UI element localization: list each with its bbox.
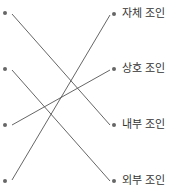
matching-diagram: [0, 0, 176, 189]
right-dot-2: [112, 67, 116, 71]
left-dots: [3, 11, 7, 183]
left-dot-3: [3, 123, 7, 127]
right-dot-4: [112, 179, 116, 183]
right-dots: [112, 12, 116, 183]
right-dot-1: [112, 12, 116, 16]
right-dot-3: [112, 123, 116, 127]
label-inner-join: 내부 조인: [122, 118, 166, 132]
connection-l4-r1: [12, 15, 110, 180]
connection-l1-r3: [12, 14, 110, 125]
label-outer-join: 외부 조인: [122, 174, 166, 188]
label-self-join: 자체 조인: [122, 7, 166, 21]
left-dot-1: [3, 11, 7, 15]
left-dot-4: [3, 179, 7, 183]
connection-lines: [12, 14, 110, 181]
left-dot-2: [3, 67, 7, 71]
connection-l2-r4: [12, 70, 110, 181]
label-cross-join: 상호 조인: [122, 62, 166, 76]
